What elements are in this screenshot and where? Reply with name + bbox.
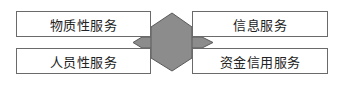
box-material-service: 物质性服务 [16,11,151,37]
box-information-service: 信息服务 [192,11,328,37]
box-personnel-service: 人员性服务 [16,48,151,74]
hexagon-hub [151,13,192,71]
box-label: 人员性服务 [50,52,118,71]
box-label: 物质性服务 [50,15,118,34]
box-label: 资金信用服务 [220,52,301,71]
box-financial-credit-service: 资金信用服务 [192,48,328,74]
box-label: 信息服务 [233,15,287,34]
